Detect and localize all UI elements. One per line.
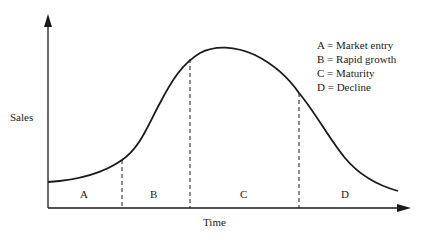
product-life-cycle-chart: Sales Time A B C D A = Market entry B = … <box>0 0 422 237</box>
x-axis-label: Time <box>203 216 226 228</box>
legend-item-b: B = Rapid growth <box>317 53 397 65</box>
y-axis-arrow-icon <box>44 14 52 27</box>
legend-item-c: C = Maturity <box>317 67 375 79</box>
legend-item-a: A = Market entry <box>317 39 394 51</box>
stage-boundaries <box>122 59 299 208</box>
region-label-b: B <box>150 188 157 200</box>
region-label-a: A <box>80 188 88 200</box>
region-label-c: C <box>240 188 247 200</box>
region-label-d: D <box>341 188 349 200</box>
legend-item-d: D = Decline <box>317 81 371 93</box>
legend: A = Market entry B = Rapid growth C = Ma… <box>317 39 397 93</box>
x-axis-arrow-icon <box>397 204 411 212</box>
y-axis-label: Sales <box>10 111 33 123</box>
x-axis <box>48 204 411 212</box>
y-axis <box>44 14 52 208</box>
